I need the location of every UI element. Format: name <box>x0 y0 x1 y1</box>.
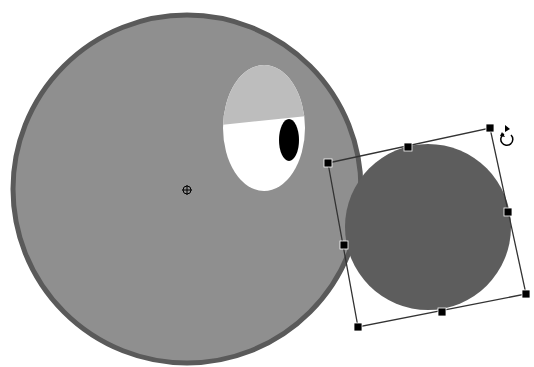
handle-top-right[interactable] <box>486 124 494 132</box>
handle-middle-right[interactable] <box>504 208 512 216</box>
handle-top-middle[interactable] <box>404 143 412 151</box>
pupil <box>279 119 299 161</box>
handle-middle-left[interactable] <box>340 241 348 249</box>
handle-bottom-middle[interactable] <box>438 308 446 316</box>
small-circle-shape[interactable] <box>345 144 511 310</box>
handle-top-left[interactable] <box>324 159 332 167</box>
handle-bottom-left[interactable] <box>354 323 362 331</box>
drawing-canvas[interactable] <box>0 0 534 367</box>
handle-bottom-right[interactable] <box>522 290 530 298</box>
